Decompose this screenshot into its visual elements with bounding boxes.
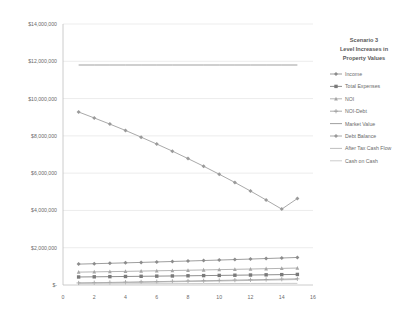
data-point <box>280 277 284 281</box>
data-point <box>334 134 338 138</box>
data-point <box>217 172 221 176</box>
legend-item-noi-debt[interactable]: NOI-Debt <box>330 108 367 114</box>
data-point <box>334 109 338 113</box>
x-axis-tick-label: 8 <box>187 294 190 300</box>
chart-container: $-$2,000,000$4,000,000$6,000,000$8,000,0… <box>0 0 418 323</box>
data-point <box>92 262 96 266</box>
series-line <box>79 283 298 284</box>
data-point <box>295 277 299 281</box>
series-cash-on-cash <box>79 283 298 284</box>
legend-item-noi[interactable]: NOI <box>330 96 354 102</box>
x-axis-tick-label: 6 <box>155 294 158 300</box>
data-point <box>280 273 283 276</box>
series-noi <box>77 266 300 274</box>
data-point <box>249 257 253 261</box>
data-point <box>233 258 237 262</box>
data-point <box>233 274 236 277</box>
data-point <box>334 85 337 88</box>
data-point <box>108 275 111 278</box>
data-point <box>264 273 267 276</box>
data-point <box>155 260 159 264</box>
x-axis-tick-label: 2 <box>93 294 96 300</box>
legend-label: After Tax Cash Flow <box>345 145 392 151</box>
data-point <box>186 157 190 161</box>
data-point <box>334 72 338 76</box>
data-point <box>295 255 299 259</box>
data-point <box>233 180 237 184</box>
data-point <box>93 275 96 278</box>
legend-item-market-value[interactable]: Market Value <box>330 121 375 127</box>
data-point <box>264 198 268 202</box>
series-income <box>77 255 300 266</box>
y-axis-tick-label: $8,000,000 <box>31 133 57 139</box>
data-point <box>264 257 268 261</box>
legend-label: Debt Balance <box>345 133 376 139</box>
x-axis-tick-label: 10 <box>216 294 222 300</box>
data-point <box>155 274 158 277</box>
data-point <box>77 262 81 266</box>
data-point <box>170 149 174 153</box>
data-point <box>186 279 190 283</box>
legend-item-debt-balance[interactable]: Debt Balance <box>330 133 376 139</box>
gridlines: $-$2,000,000$4,000,000$6,000,000$8,000,0… <box>28 21 313 288</box>
data-point <box>108 122 112 126</box>
legend-item-income[interactable]: Income <box>330 71 362 77</box>
y-axis-tick-label: $10,000,000 <box>28 96 57 102</box>
data-point <box>264 277 268 281</box>
chart-title-line: Property Values <box>343 55 385 61</box>
legend-item-after-tax-cash-flow[interactable]: After Tax Cash Flow <box>330 145 392 151</box>
y-axis-tick-label: $- <box>52 282 57 288</box>
data-point <box>249 189 253 193</box>
data-point <box>124 275 127 278</box>
data-point <box>280 256 284 260</box>
y-axis-tick-label: $6,000,000 <box>31 170 57 176</box>
data-point <box>124 261 128 265</box>
data-point <box>202 279 206 283</box>
data-point <box>217 258 221 262</box>
data-point <box>186 274 189 277</box>
data-point <box>170 259 174 263</box>
data-point <box>139 275 142 278</box>
data-point <box>248 278 252 282</box>
legend-label: NOI-Debt <box>345 108 367 114</box>
legend-label: Market Value <box>345 121 375 127</box>
chart-title-line: Scenario 3 <box>350 37 378 43</box>
legend-label: Income <box>345 71 362 77</box>
data-point <box>139 260 143 264</box>
y-axis-tick-label: $2,000,000 <box>31 245 57 251</box>
data-point <box>155 142 159 146</box>
legend-item-cash-on-cash[interactable]: Cash on Cash <box>330 158 378 164</box>
data-point <box>77 110 81 114</box>
series-debt-balance <box>77 110 300 211</box>
x-axis-tick-label: 0 <box>62 294 65 300</box>
data-point <box>171 274 174 277</box>
data-point <box>92 116 96 120</box>
legend-label: Cash on Cash <box>345 158 378 164</box>
legend-label: Total Expenses <box>345 83 381 89</box>
x-axis-tick-label: 14 <box>279 294 285 300</box>
data-point <box>296 273 299 276</box>
data-point <box>186 259 190 263</box>
legend: Scenario 3Level Increases inProperty Val… <box>330 37 392 164</box>
x-axis-tick-label: 12 <box>248 294 254 300</box>
x-axis-tick-label: 16 <box>310 294 316 300</box>
chart-title-line: Level Increases in <box>340 46 389 52</box>
line-chart: $-$2,000,000$4,000,000$6,000,000$8,000,0… <box>0 0 418 323</box>
data-point <box>202 274 205 277</box>
data-point <box>217 278 221 282</box>
data-point <box>108 261 112 265</box>
x-axis: 0246810121416 <box>62 294 316 300</box>
y-axis-tick-label: $14,000,000 <box>28 21 57 27</box>
data-point <box>249 273 252 276</box>
legend-label: NOI <box>345 96 354 102</box>
x-axis-tick-label: 4 <box>124 294 127 300</box>
data-point <box>124 128 128 132</box>
data-point <box>233 278 237 282</box>
y-axis-tick-label: $4,000,000 <box>31 207 57 213</box>
data-point <box>218 274 221 277</box>
data-point <box>77 275 80 278</box>
data-point <box>202 259 206 263</box>
y-axis-tick-label: $12,000,000 <box>28 58 57 64</box>
data-point <box>202 164 206 168</box>
legend-item-total-expenses[interactable]: Total Expenses <box>330 83 381 89</box>
